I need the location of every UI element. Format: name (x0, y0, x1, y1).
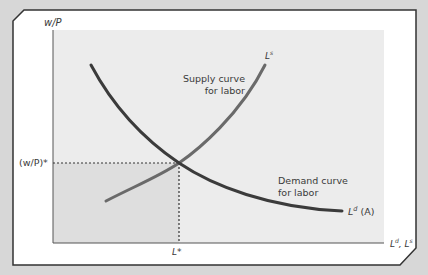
supply-annotation-line1: Supply curve (183, 73, 245, 84)
equilibrium-wage-label: (w/P)* (19, 157, 48, 168)
demand-annotation-line1: Demand curve (278, 175, 348, 186)
supply-annotation-line2: for labor (205, 85, 245, 96)
labor-market-chart: w/P (w/P)* L* Supply curve for labor Ls … (0, 0, 428, 275)
x-axis-label: Ld, Ls (390, 237, 413, 249)
equilibrium-labor-label: L* (172, 247, 182, 257)
y-axis-label: w/P (44, 17, 63, 28)
demand-annotation-line2: for labor (278, 187, 318, 198)
demand-curve-end-label: Ld (A) (348, 205, 374, 217)
chart-card: w/P (w/P)* L* Supply curve for labor Ls … (0, 0, 428, 275)
